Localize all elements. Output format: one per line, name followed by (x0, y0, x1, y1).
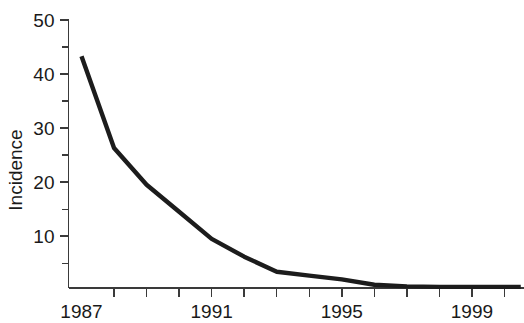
x-axis-group: 1987199119951999 (60, 288, 524, 322)
y-tick-label: 10 (33, 226, 54, 247)
x-axis-tick-labels: 1987199119951999 (60, 301, 493, 322)
y-axis-title: Incidence (5, 129, 26, 210)
y-axis-group: 1020304050 Incidence (5, 10, 69, 288)
y-axis-tick-labels: 1020304050 (33, 10, 54, 247)
incidence-line-chart: 1020304050 Incidence 1987199119951999 (0, 0, 524, 323)
x-tick-label: 1999 (451, 301, 493, 322)
x-tick-label: 1991 (191, 301, 233, 322)
x-tick-label: 1995 (321, 301, 363, 322)
y-tick-label: 20 (33, 172, 54, 193)
y-tick-label: 30 (33, 118, 54, 139)
y-tick-label: 40 (33, 64, 54, 85)
data-series-group (82, 56, 521, 287)
x-tick-label: 1987 (60, 301, 102, 322)
y-axis-ticks (60, 20, 69, 263)
y-tick-label: 50 (33, 10, 54, 31)
data-line-incidence (82, 56, 521, 287)
x-axis-ticks (114, 288, 504, 297)
chart-figure: 1020304050 Incidence 1987199119951999 (0, 0, 524, 323)
